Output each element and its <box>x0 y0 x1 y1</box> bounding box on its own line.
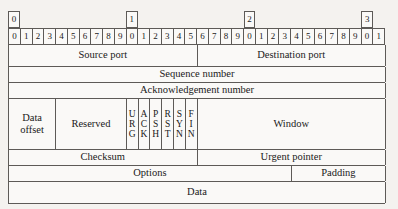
bit-cell: 1 <box>373 29 385 45</box>
field-acknowledgement-number: Acknowledgement number <box>9 83 386 98</box>
bit-cell: 2 <box>33 29 45 45</box>
flag-letter: H <box>152 129 159 139</box>
field-row-acknowledgement: Acknowledgement number <box>8 83 385 99</box>
field-reserved: Reserved <box>56 99 127 149</box>
field-psh: PSH <box>150 99 162 149</box>
field-urg: URG <box>127 99 139 149</box>
bit-cell: 9 <box>350 29 362 45</box>
flag-letter: R <box>129 119 135 129</box>
field-row-options-padding: OptionsPadding <box>8 166 385 182</box>
bit-cell: 7 <box>326 29 338 45</box>
flag-letter: Y <box>176 119 183 129</box>
bit-cell: 5 <box>185 29 197 45</box>
flag-letter: S <box>177 109 182 119</box>
flag-letter: K <box>141 129 148 139</box>
flag-letter: G <box>129 129 136 139</box>
bit-cell: 1 <box>138 29 150 45</box>
flag-letter: P <box>153 109 158 119</box>
field-sequence-number: Sequence number <box>9 67 386 82</box>
header-field-rows: Source portDestination portSequence numb… <box>8 45 385 204</box>
flag-letter: N <box>176 129 183 139</box>
decade-marker: 2 <box>244 11 256 28</box>
flag-letter: N <box>188 129 195 139</box>
flag-letter: C <box>141 119 147 129</box>
field-syn: SYN <box>174 99 186 149</box>
decade-marker: 1 <box>126 11 138 28</box>
bit-cell: 9 <box>232 29 244 45</box>
bit-cell: 6 <box>197 29 209 45</box>
bit-cell: 1 <box>21 29 33 45</box>
bit-cell: 4 <box>56 29 68 45</box>
tcp-header-diagram: 0123 01234567890123456789012345678901 So… <box>8 11 385 204</box>
bit-cell: 4 <box>291 29 303 45</box>
field-rst: RST <box>162 99 174 149</box>
bit-cell: 7 <box>91 29 103 45</box>
flag-letter: I <box>190 119 193 129</box>
bit-cell: 3 <box>162 29 174 45</box>
field-window: Window <box>198 99 387 149</box>
bit-cell: 0 <box>127 29 139 45</box>
field-options: Options <box>9 166 292 181</box>
field-destination-port: Destination port <box>198 45 387 66</box>
field-data: Data <box>9 182 386 203</box>
flag-letter: S <box>165 119 170 129</box>
field-padding: Padding <box>292 166 386 181</box>
flag-letter: R <box>164 109 170 119</box>
bit-cell: 4 <box>174 29 186 45</box>
flag-letter: F <box>188 109 193 119</box>
decade-marker-strip: 0123 <box>8 11 385 28</box>
flag-letter: T <box>165 129 171 139</box>
bit-cell: 8 <box>338 29 350 45</box>
flag-letter: A <box>141 109 148 119</box>
decade-marker: 0 <box>8 11 20 28</box>
bit-cell: 5 <box>303 29 315 45</box>
flag-letter: S <box>153 119 158 129</box>
field-ack: ACK <box>139 99 151 149</box>
field-checksum: Checksum <box>9 150 198 165</box>
bit-cell: 2 <box>268 29 280 45</box>
flag-letter: U <box>129 109 136 119</box>
field-row-sequence: Sequence number <box>8 67 385 83</box>
bit-cell: 6 <box>315 29 327 45</box>
field-data-offset: Data offset <box>9 99 56 149</box>
bit-cell: 6 <box>80 29 92 45</box>
bit-cell: 5 <box>68 29 80 45</box>
bit-ruler: 01234567890123456789012345678901 <box>8 28 385 45</box>
bit-cell: 8 <box>103 29 115 45</box>
bit-cell: 7 <box>209 29 221 45</box>
bit-cell: 0 <box>244 29 256 45</box>
field-row-ports: Source portDestination port <box>8 45 385 67</box>
field-row-offset-flags-window: Data offsetReservedURGACKPSHRSTSYNFINWin… <box>8 99 385 150</box>
field-source-port: Source port <box>9 45 198 66</box>
field-urgent-pointer: Urgent pointer <box>198 150 387 165</box>
bit-cell: 3 <box>279 29 291 45</box>
bit-cell: 0 <box>362 29 374 45</box>
bit-cell: 2 <box>150 29 162 45</box>
decade-marker: 3 <box>361 11 373 28</box>
field-fin: FIN <box>186 99 198 149</box>
field-row-checksum-urgent: ChecksumUrgent pointer <box>8 150 385 166</box>
bit-cell: 1 <box>256 29 268 45</box>
field-row-data: Data <box>8 182 385 204</box>
bit-cell: 9 <box>115 29 127 45</box>
bit-cell: 8 <box>221 29 233 45</box>
bit-cell: 3 <box>44 29 56 45</box>
bit-cell: 0 <box>9 29 21 45</box>
